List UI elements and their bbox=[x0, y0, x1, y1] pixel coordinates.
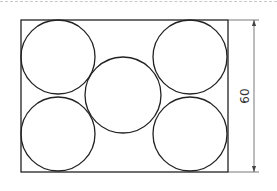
center-circle bbox=[85, 57, 161, 133]
bottom-right-circle bbox=[153, 97, 227, 171]
dimension-label: 60 bbox=[238, 88, 252, 103]
rectangle-outline bbox=[21, 20, 228, 172]
circle-packing-diagram: 60 bbox=[0, 0, 277, 191]
bounding-rectangle bbox=[21, 20, 228, 172]
top-left-circle bbox=[21, 20, 95, 94]
top-right-circle bbox=[153, 20, 227, 94]
vertical-dimension: 60 bbox=[228, 20, 259, 172]
circles-group bbox=[21, 20, 227, 171]
bottom-left-circle bbox=[21, 97, 95, 171]
